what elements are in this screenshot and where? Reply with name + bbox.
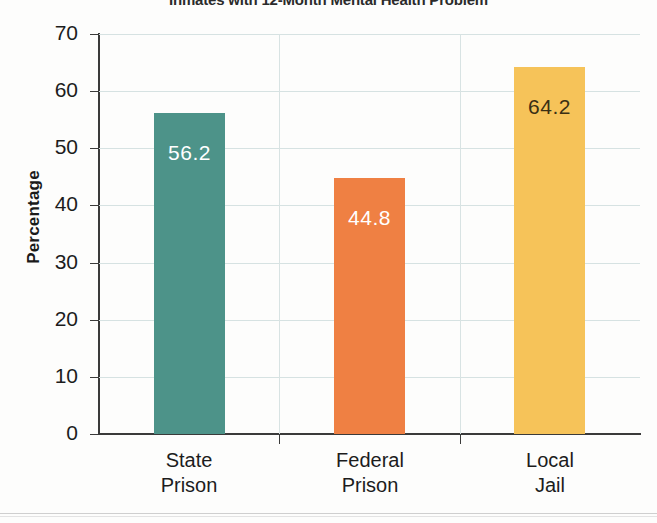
x-axis-category-label-line: State	[99, 448, 279, 473]
page-divider-rule	[0, 513, 657, 514]
gridline-vertical	[460, 34, 461, 434]
gridline-vertical	[279, 34, 280, 434]
y-axis-tick-label: 70	[14, 21, 78, 45]
x-axis-tick	[279, 435, 280, 444]
bar: 64.2	[514, 67, 585, 434]
bar-chart-figure: Inmates with 12-Month Mental Health Prob…	[0, 0, 657, 523]
y-axis-tick-label: 40	[14, 192, 78, 216]
y-axis-tick-label: 20	[14, 307, 78, 331]
x-axis-category-label-line: Jail	[460, 473, 640, 498]
chart-title: Inmates with 12-Month Mental Health Prob…	[0, 0, 657, 8]
x-axis-category-label: StatePrison	[99, 448, 279, 498]
y-axis-tick-label: 50	[14, 135, 78, 159]
bar-value-label: 64.2	[514, 95, 585, 119]
bar: 56.2	[154, 113, 225, 434]
y-axis-tick-label: 10	[14, 364, 78, 388]
x-axis-category-label-line: Federal	[280, 448, 460, 473]
bar-value-label: 44.8	[334, 206, 405, 230]
x-axis-category-label-line: Local	[460, 448, 640, 473]
x-axis-category-label-line: Prison	[280, 473, 460, 498]
x-axis-category-label: FederalPrison	[280, 448, 460, 498]
y-axis-tick-label: 30	[14, 250, 78, 274]
x-axis-category-label-line: Prison	[99, 473, 279, 498]
x-axis-category-label: LocalJail	[460, 448, 640, 498]
bar-value-label: 56.2	[154, 141, 225, 165]
page-divider-rule-secondary	[0, 516, 657, 517]
y-axis-tick-label: 60	[14, 78, 78, 102]
plot-area: 56.244.864.2	[99, 34, 640, 434]
x-axis-tick	[460, 435, 461, 444]
bar: 44.8	[334, 178, 405, 434]
y-axis-tick-label: 0	[14, 421, 78, 445]
gridline-horizontal	[99, 34, 640, 35]
